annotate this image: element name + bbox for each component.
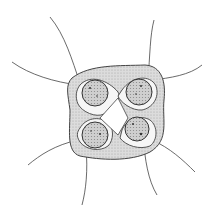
cell-top-right <box>126 79 152 105</box>
cell-bottom-right <box>125 117 149 141</box>
cell-bottom-left <box>82 122 108 148</box>
colony-drawing <box>0 0 216 211</box>
cell-top-left <box>82 80 108 106</box>
illustration <box>0 0 216 211</box>
